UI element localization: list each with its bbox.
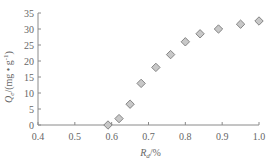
data-point-diamond [126, 100, 134, 108]
data-point-diamond [104, 121, 112, 129]
data-point-diamond [181, 38, 189, 46]
x-tick-label: 1.0 [253, 131, 266, 142]
x-tick-label: 0.7 [142, 131, 155, 142]
y-tick-label: 20 [24, 56, 34, 67]
y-tick-label: 30 [24, 24, 34, 35]
data-point-diamond [137, 79, 145, 87]
x-tick-label: 0.8 [179, 131, 192, 142]
y-tick-label: 10 [24, 88, 34, 99]
axes: 0.40.50.60.70.80.91.005101520253035 [24, 8, 265, 143]
scatter-chart: 0.40.50.60.70.80.91.005101520253035 Rd/%… [0, 0, 270, 165]
x-tick-label: 0.4 [32, 131, 45, 142]
data-point-diamond [166, 50, 174, 58]
y-tick-label: 0 [29, 120, 34, 131]
x-axis-label: Rd/% [139, 147, 161, 160]
data-point-diamond [214, 25, 222, 33]
data-point-diamond [196, 30, 204, 38]
data-points [104, 17, 263, 129]
x-tick-label: 0.6 [105, 131, 118, 142]
x-tick-label: 0.5 [69, 131, 82, 142]
x-tick-label: 0.9 [216, 131, 229, 142]
data-point-diamond [236, 20, 244, 28]
y-axis-label: Qe/(mg • g-1) [2, 51, 16, 103]
y-tick-label: 5 [29, 104, 34, 115]
y-tick-label: 25 [24, 40, 34, 51]
data-point-diamond [115, 114, 123, 122]
data-point-diamond [152, 63, 160, 71]
y-tick-label: 35 [24, 8, 34, 19]
chart-canvas: 0.40.50.60.70.80.91.005101520253035 Rd/%… [0, 0, 270, 165]
data-point-diamond [255, 17, 263, 25]
axis-labels: Rd/%Qe/(mg • g-1) [2, 51, 161, 160]
y-tick-label: 15 [24, 72, 34, 83]
